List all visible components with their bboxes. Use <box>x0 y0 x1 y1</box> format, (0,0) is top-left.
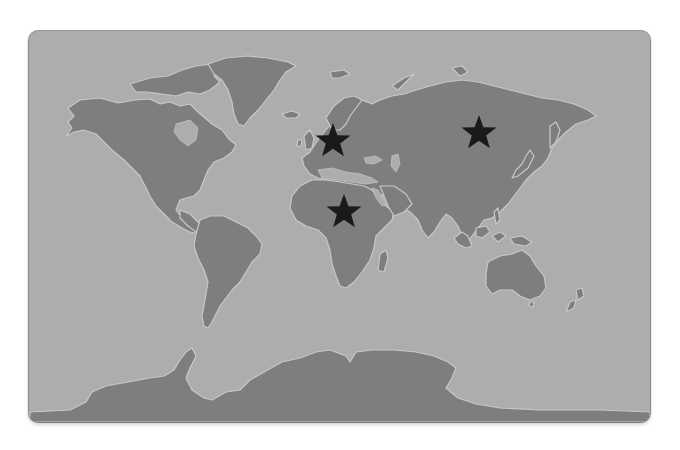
south-america <box>194 216 262 328</box>
british-isles <box>297 130 314 150</box>
new-zealand <box>566 288 584 312</box>
severnaya-zemlya <box>452 66 468 76</box>
star-marker-siberia[interactable] <box>460 114 498 152</box>
star-icon <box>314 122 352 160</box>
star-icon <box>460 114 498 152</box>
star-marker-central-africa[interactable] <box>325 193 363 231</box>
world-map-card <box>29 31 650 422</box>
star-icon <box>325 193 363 231</box>
arctic-archipelago <box>130 64 222 96</box>
novaya-zemlya <box>392 74 414 90</box>
star-marker-europe[interactable] <box>314 122 352 160</box>
svalbard <box>330 70 350 78</box>
tasmania <box>529 302 534 307</box>
madagascar <box>378 250 388 272</box>
australia <box>486 250 546 300</box>
antarctica <box>30 348 650 422</box>
iceland <box>282 111 300 118</box>
north-america <box>66 98 236 234</box>
